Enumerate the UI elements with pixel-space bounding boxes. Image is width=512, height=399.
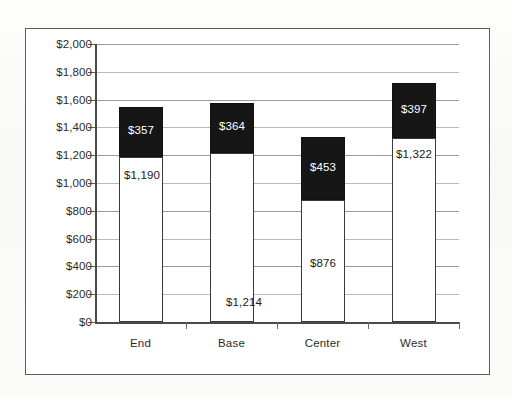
bar-segment-bottom[interactable] [119,157,163,322]
gridline [95,72,459,73]
x-axis-tickmark [459,322,460,329]
y-axis-tick-label: $1,800 [20,66,92,78]
x-axis-category-label-west: West [359,337,469,349]
y-axis-line [95,44,97,323]
y-axis-tick-label: $400 [20,260,92,272]
chart-plot-area: $2,000$1,800$1,600$1,400$1,200$1,000$800… [0,0,512,399]
bar-segment-bottom[interactable] [392,138,436,322]
x-axis-tickmark [368,322,369,329]
x-axis-tickmark [186,322,187,329]
bar-value-label-top: $364 [213,120,251,132]
y-axis-tick-label: $200 [20,288,92,300]
gridline [95,44,459,45]
bar-value-label-top: $397 [395,103,433,115]
y-axis-tick-label: $1,200 [20,149,92,161]
y-axis-tick-label: $600 [20,233,92,245]
bar-value-label-bottom: $876 [295,257,351,269]
bar-value-label-bottom: $1,322 [386,148,442,160]
x-axis-tickmark [277,322,278,329]
y-axis-tick-label: $1,000 [20,177,92,189]
y-axis-label-group: $2,000$1,800$1,600$1,400$1,200$1,000$800… [20,0,92,399]
bar-value-label-bottom: $1,190 [114,169,170,181]
bar-value-label-top: $357 [122,124,160,136]
bar-value-label-top: $453 [304,161,342,173]
y-axis-tick-label: $1,600 [20,94,92,106]
bar-value-label-bottom: $1,214 [216,296,272,308]
y-axis-tick-label: $2,000 [20,38,92,50]
y-axis-tick-label: $0 [20,316,92,328]
y-axis-tick-label: $800 [20,205,92,217]
y-axis-tick-label: $1,400 [20,121,92,133]
